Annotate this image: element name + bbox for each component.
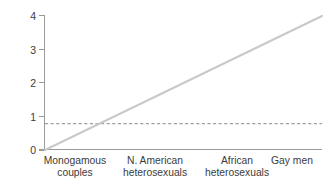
x-axis-labels: Monogamous couples N. American heterosex… (0, 155, 325, 193)
x-label-gay-men: Gay men (259, 155, 325, 167)
x-label-line-1: Gay men (259, 155, 325, 167)
x-label-line-2: heterosexuals (177, 167, 297, 179)
chart-container: Reproductive rate 4 3 2 1 0 Monogamous c… (0, 0, 325, 195)
trend-line (45, 16, 322, 150)
